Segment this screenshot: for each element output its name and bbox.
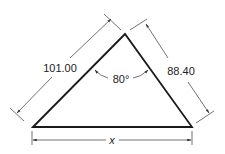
triangle-diagram: 101.00 88.40 80° x <box>0 0 225 154</box>
left-extension-line-top <box>104 14 121 30</box>
left-side-length-label: 101.00 <box>43 62 77 74</box>
right-extension-line-top <box>130 19 147 30</box>
base-length-label: x <box>108 134 115 146</box>
right-extension-line-bottom <box>196 111 214 123</box>
left-dimension-line-lower <box>17 77 52 113</box>
left-extension-line-bottom <box>10 108 24 121</box>
right-dimension-line-lower <box>188 82 209 113</box>
apex-angle-label: 80° <box>113 73 130 85</box>
right-side-length-label: 88.40 <box>167 65 195 77</box>
left-dimension-line-upper <box>70 19 111 58</box>
angle-arc-left <box>95 70 108 78</box>
angle-arc-right <box>133 70 148 78</box>
right-dimension-line-upper <box>146 24 168 58</box>
